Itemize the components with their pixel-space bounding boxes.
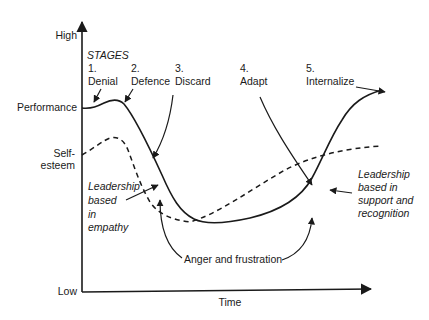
x-axis [82, 289, 371, 292]
stage-1-number: 1. [88, 62, 97, 74]
anger-label: Anger and frustration [184, 253, 282, 265]
performance-label: Performance [17, 101, 77, 113]
stage-3-number: 3. [175, 62, 184, 74]
y-low-label: Low [58, 285, 78, 297]
empathy-line-2: based [88, 194, 118, 206]
support-line-2: based in [358, 181, 398, 193]
stage-4-number: 4. [240, 62, 249, 74]
stage-5-number: 5. [306, 62, 315, 74]
stage-1-name: Denial [88, 75, 118, 87]
support-line-4: recognition [358, 207, 410, 219]
stage-4-name: Adapt [240, 75, 268, 87]
empathy-line-3: in [88, 208, 96, 220]
stage-3-name: Discard [175, 75, 211, 87]
denial-arrow [94, 89, 101, 102]
internalize-arrow [356, 87, 385, 92]
stage-2-name: Defence [131, 75, 170, 87]
anger-arrow-right [282, 218, 312, 260]
anger-arrow-left [160, 200, 182, 258]
x-time-label: Time [219, 296, 242, 308]
support-arrow [330, 190, 352, 193]
empathy-line-4: empathy [88, 221, 129, 233]
change-curve-diagram: High Low Time Performance Self- esteem S… [0, 0, 429, 320]
adapt-arrow [260, 97, 312, 185]
y-high-label: High [55, 29, 77, 41]
self-esteem-label-1: Self- [53, 147, 75, 159]
support-line-1: Leadership [358, 168, 410, 180]
performance-curve [82, 90, 382, 223]
stage-2-number: 2. [131, 62, 140, 74]
stages-heading: STAGES [87, 49, 129, 61]
empathy-line-1: Leadership [88, 180, 140, 192]
self-esteem-label-2: esteem [41, 159, 76, 171]
defence-arrow [125, 89, 133, 102]
discard-arrow [153, 95, 173, 158]
support-line-3: support and [358, 194, 415, 206]
stage-5-name: Internalize [306, 75, 355, 87]
